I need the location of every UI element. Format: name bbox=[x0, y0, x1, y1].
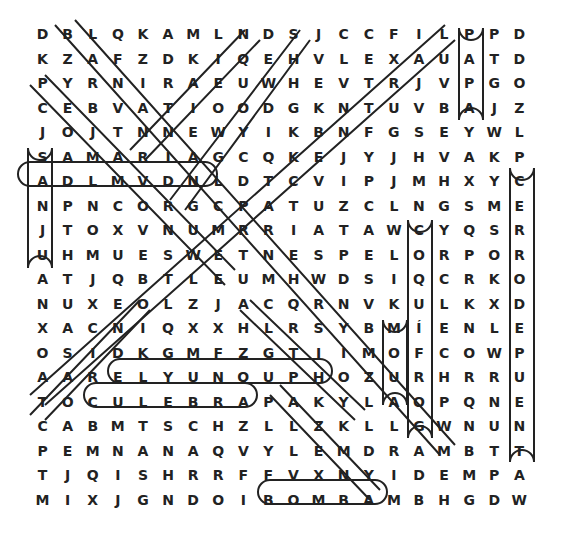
grid-cell[interactable]: Z bbox=[331, 194, 356, 219]
grid-cell[interactable]: U bbox=[30, 243, 55, 268]
grid-cell[interactable]: A bbox=[55, 316, 80, 341]
grid-cell[interactable]: I bbox=[256, 120, 281, 145]
grid-cell[interactable]: M bbox=[105, 414, 130, 439]
grid-cell[interactable]: I bbox=[281, 218, 306, 243]
grid-cell[interactable]: I bbox=[331, 341, 356, 366]
grid-cell[interactable]: Y bbox=[432, 218, 457, 243]
grid-cell[interactable]: J bbox=[80, 120, 105, 145]
grid-cell[interactable]: E bbox=[507, 316, 532, 341]
grid-cell[interactable]: K bbox=[482, 267, 507, 292]
grid-cell[interactable]: N bbox=[331, 120, 356, 145]
grid-cell[interactable]: R bbox=[130, 145, 155, 170]
grid-cell[interactable]: M bbox=[457, 463, 482, 488]
grid-cell[interactable]: J bbox=[306, 22, 331, 47]
grid-cell[interactable]: R bbox=[256, 218, 281, 243]
grid-cell[interactable]: W bbox=[432, 414, 457, 439]
grid-cell[interactable]: T bbox=[356, 71, 381, 96]
grid-cell[interactable]: F bbox=[206, 341, 231, 366]
grid-cell[interactable]: A bbox=[155, 22, 180, 47]
grid-cell[interactable]: M bbox=[181, 22, 206, 47]
grid-cell[interactable]: R bbox=[206, 390, 231, 415]
grid-cell[interactable]: M bbox=[206, 218, 231, 243]
grid-cell[interactable]: O bbox=[281, 488, 306, 513]
grid-cell[interactable]: K bbox=[457, 292, 482, 317]
grid-cell[interactable]: J bbox=[105, 488, 130, 513]
grid-cell[interactable]: P bbox=[30, 71, 55, 96]
grid-cell[interactable]: Q bbox=[256, 145, 281, 170]
grid-cell[interactable]: N bbox=[105, 439, 130, 464]
grid-cell[interactable]: K bbox=[130, 341, 155, 366]
grid-cell[interactable]: A bbox=[406, 439, 431, 464]
grid-cell[interactable]: F bbox=[381, 22, 406, 47]
grid-cell[interactable]: O bbox=[507, 267, 532, 292]
grid-cell[interactable]: P bbox=[457, 71, 482, 96]
grid-cell[interactable]: Í bbox=[406, 316, 431, 341]
grid-cell[interactable]: H bbox=[231, 316, 256, 341]
grid-cell[interactable]: R bbox=[155, 194, 180, 219]
grid-cell[interactable]: P bbox=[507, 145, 532, 170]
grid-cell[interactable]: R bbox=[457, 365, 482, 390]
grid-cell[interactable]: U bbox=[381, 96, 406, 121]
grid-cell[interactable]: I bbox=[105, 463, 130, 488]
grid-cell[interactable]: Q bbox=[155, 316, 180, 341]
grid-cell[interactable]: N bbox=[256, 243, 281, 268]
grid-cell[interactable]: Y bbox=[155, 365, 180, 390]
grid-cell[interactable]: I bbox=[55, 488, 80, 513]
grid-cell[interactable]: L bbox=[381, 414, 406, 439]
grid-cell[interactable]: L bbox=[155, 292, 180, 317]
grid-cell[interactable]: Y bbox=[256, 439, 281, 464]
grid-cell[interactable]: C bbox=[231, 145, 256, 170]
grid-cell[interactable]: C bbox=[30, 414, 55, 439]
grid-cell[interactable]: K bbox=[331, 414, 356, 439]
grid-cell[interactable]: F bbox=[406, 341, 431, 366]
grid-cell[interactable]: M bbox=[356, 341, 381, 366]
grid-cell[interactable]: R bbox=[482, 365, 507, 390]
grid-cell[interactable]: E bbox=[55, 96, 80, 121]
grid-cell[interactable]: S bbox=[356, 267, 381, 292]
grid-cell[interactable]: W bbox=[482, 341, 507, 366]
grid-cell[interactable]: J bbox=[30, 120, 55, 145]
grid-cell[interactable]: T bbox=[482, 439, 507, 464]
grid-cell[interactable]: W bbox=[507, 488, 532, 513]
grid-cell[interactable]: L bbox=[432, 292, 457, 317]
grid-cell[interactable]: T bbox=[55, 267, 80, 292]
grid-cell[interactable]: A bbox=[30, 365, 55, 390]
grid-cell[interactable]: S bbox=[406, 120, 431, 145]
grid-cell[interactable]: C bbox=[105, 194, 130, 219]
grid-cell[interactable]: N bbox=[457, 316, 482, 341]
grid-cell[interactable]: D bbox=[507, 47, 532, 72]
grid-cell[interactable]: V bbox=[306, 169, 331, 194]
grid-cell[interactable]: C bbox=[206, 194, 231, 219]
grid-cell[interactable]: Q bbox=[457, 218, 482, 243]
grid-cell[interactable]: X bbox=[80, 488, 105, 513]
grid-cell[interactable]: M bbox=[256, 267, 281, 292]
grid-cell[interactable]: W bbox=[306, 267, 331, 292]
grid-cell[interactable]: L bbox=[381, 194, 406, 219]
grid-cell[interactable]: L bbox=[356, 414, 381, 439]
grid-cell[interactable]: E bbox=[130, 243, 155, 268]
grid-cell[interactable]: Y bbox=[482, 169, 507, 194]
grid-cell[interactable]: L bbox=[80, 169, 105, 194]
grid-cell[interactable]: I bbox=[206, 47, 231, 72]
grid-cell[interactable]: N bbox=[30, 292, 55, 317]
grid-cell[interactable]: E bbox=[281, 243, 306, 268]
grid-cell[interactable]: B bbox=[55, 22, 80, 47]
grid-cell[interactable]: E bbox=[55, 439, 80, 464]
grid-cell[interactable]: D bbox=[356, 439, 381, 464]
grid-cell[interactable]: V bbox=[406, 96, 431, 121]
grid-cell[interactable]: Q bbox=[80, 463, 105, 488]
grid-cell[interactable]: C bbox=[30, 96, 55, 121]
grid-cell[interactable]: C bbox=[432, 341, 457, 366]
grid-cell[interactable]: H bbox=[406, 145, 431, 170]
grid-cell[interactable]: A bbox=[356, 218, 381, 243]
grid-cell[interactable]: E bbox=[105, 292, 130, 317]
grid-cell[interactable]: G bbox=[457, 488, 482, 513]
grid-cell[interactable]: W bbox=[181, 243, 206, 268]
grid-cell[interactable]: M bbox=[30, 488, 55, 513]
grid-cell[interactable]: X bbox=[181, 316, 206, 341]
grid-cell[interactable]: J bbox=[331, 145, 356, 170]
grid-cell[interactable]: U bbox=[105, 243, 130, 268]
grid-cell[interactable]: A bbox=[306, 218, 331, 243]
grid-cell[interactable]: R bbox=[281, 316, 306, 341]
grid-cell[interactable]: R bbox=[80, 365, 105, 390]
